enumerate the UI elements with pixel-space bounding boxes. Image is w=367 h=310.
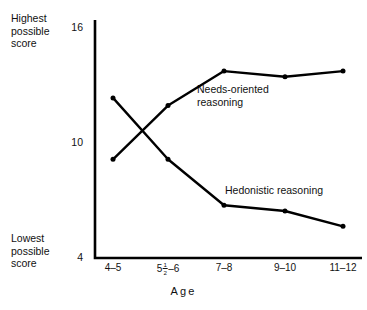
data-point xyxy=(222,203,227,208)
chart-figure: Highest possible score Lowest possible s… xyxy=(0,0,367,310)
plot-area xyxy=(0,0,367,310)
series-hedonistic xyxy=(111,95,346,228)
data-point xyxy=(111,95,116,100)
data-point xyxy=(222,69,227,74)
data-point xyxy=(341,69,346,74)
data-point xyxy=(111,157,116,162)
data-point xyxy=(283,74,288,79)
data-point xyxy=(341,224,346,229)
series-layer xyxy=(111,69,346,229)
series-line xyxy=(113,71,343,159)
data-point xyxy=(166,157,171,162)
series-needs-oriented xyxy=(111,69,346,162)
series-line xyxy=(113,98,343,226)
data-point xyxy=(283,209,288,214)
data-point xyxy=(166,103,171,108)
